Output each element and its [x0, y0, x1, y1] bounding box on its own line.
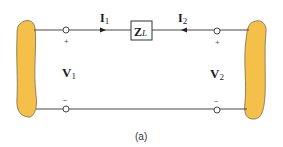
current-label-i1: I1	[100, 11, 109, 26]
right-network-blob	[245, 21, 266, 119]
terminal-left-top	[63, 27, 69, 33]
left-minus-sign: −	[63, 96, 68, 105]
terminal-right-bottom	[214, 107, 220, 113]
right-plus-sign: +	[215, 38, 220, 47]
impedance-label: ZL	[134, 25, 147, 39]
two-port-circuit-diagram: ZL I1 I2 + − + − V1 V2 (a)	[0, 0, 283, 147]
terminal-left-bottom	[63, 106, 69, 112]
right-minus-sign: −	[214, 97, 219, 106]
figure-caption: (a)	[135, 131, 147, 142]
left-network-blob	[17, 21, 37, 118]
voltage-label-v1: V1	[62, 65, 76, 81]
voltage-label-v2: V2	[210, 66, 224, 82]
current-arrow-i1	[100, 28, 106, 33]
current-arrow-i2	[181, 28, 187, 33]
terminal-right-top	[214, 28, 220, 34]
current-label-i2: I2	[178, 11, 187, 26]
left-plus-sign: +	[64, 37, 69, 46]
